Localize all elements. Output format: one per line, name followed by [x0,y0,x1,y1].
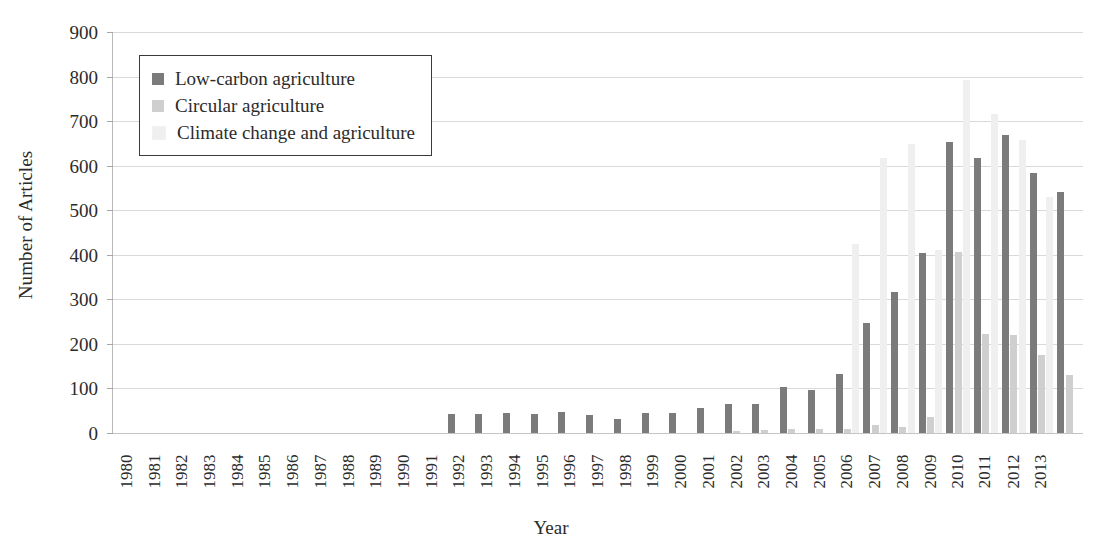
x-tick-label: 1984 [226,437,248,511]
year-group [1030,32,1054,433]
legend-label: Low-carbon agriculture [175,69,355,88]
bar [880,158,887,433]
bar [1019,140,1026,433]
x-tick-label-text: 2007 [866,455,883,489]
x-tick-label-text: 1988 [339,455,356,489]
x-axis-title-text: Year [533,517,568,538]
bar-chart-figure: Number of Articles 900800700600500400300… [0,0,1102,557]
x-tick-label: 1988 [337,437,359,511]
x-tick-label-text: 1994 [505,455,522,489]
bar [475,414,482,433]
x-tick-label-text: 1991 [422,455,439,489]
bar [697,408,704,433]
x-tick-label: 1989 [364,437,386,511]
x-tick-label-text: 1996 [561,455,578,489]
y-axis-title-text: Number of Articles [15,151,37,299]
year-group [697,32,721,433]
bar [852,244,859,433]
legend-swatch-icon [152,126,166,140]
legend-item[interactable]: Climate change and agriculture [152,119,415,146]
legend-swatch-icon [152,73,164,85]
x-tick-label-text: 2009 [921,455,938,489]
x-tick-label: 2005 [808,437,830,511]
chart-legend: Low-carbon agricultureCircular agricultu… [139,55,432,156]
x-axis-title: Year [0,517,1102,539]
bar [863,323,870,433]
year-group [780,32,804,433]
x-tick-label-text: 1989 [367,455,384,489]
bar [503,413,510,433]
bar [935,250,942,433]
bar [982,334,989,433]
y-axis-title: Number of Articles [8,0,44,450]
x-tick-label: 1980 [115,437,137,511]
x-tick-label: 1995 [531,437,553,511]
x-axis-tick-labels: 1980198119821983198419851986198719881989… [112,437,1082,515]
year-group [558,32,582,433]
x-tick-label: 2011 [974,437,996,511]
year-group [642,32,666,433]
bar [974,158,981,433]
bar [558,412,565,433]
bar [899,427,906,433]
x-tick-label-text: 2010 [949,455,966,489]
year-group [448,32,472,433]
bar [733,431,740,433]
x-tick-label: 2012 [1002,437,1024,511]
bar [752,404,759,433]
bar [1046,197,1053,433]
x-tick-label: 1992 [447,437,469,511]
x-tick-label-text: 2011 [977,455,994,488]
bar [927,417,934,433]
x-tick-label: 2010 [946,437,968,511]
year-group [1057,32,1081,433]
bar [955,252,962,433]
bar [844,429,851,433]
y-tick-label: 300 [70,290,99,309]
y-tick-label: 600 [70,156,99,175]
x-tick-label-text: 1995 [533,455,550,489]
bar [669,413,676,433]
bar [642,413,649,433]
x-tick-label-text: 1983 [201,455,218,489]
year-group [503,32,527,433]
x-tick-label: 1987 [309,437,331,511]
x-tick-label-text: 1999 [644,455,661,489]
bar [725,404,732,433]
bar [1030,173,1037,433]
x-tick-label: 2006 [835,437,857,511]
bar [586,415,593,433]
bar [614,419,621,433]
year-group [669,32,693,433]
x-tick-label-text: 2012 [1004,455,1021,489]
bar [991,114,998,433]
year-group [863,32,887,433]
y-tick-label: 800 [70,67,99,86]
y-tick-label: 700 [70,112,99,131]
y-tick-label: 100 [70,379,99,398]
x-tick-label: 1996 [558,437,580,511]
x-tick-label: 1991 [420,437,442,511]
legend-item[interactable]: Circular agriculture [152,92,415,119]
x-tick-label: 1997 [586,437,608,511]
x-tick-label: 2004 [780,437,802,511]
bar [891,292,898,433]
x-tick-label: 2007 [863,437,885,511]
legend-item[interactable]: Low-carbon agriculture [152,65,415,92]
x-tick-label-text: 1982 [173,455,190,489]
bar [531,414,538,433]
x-tick-label: 2009 [919,437,941,511]
x-tick-label: 2008 [891,437,913,511]
year-group [891,32,915,433]
y-tick-label: 400 [70,245,99,264]
x-tick-label-text: 2006 [838,455,855,489]
x-tick-label: 1999 [641,437,663,511]
y-tick-label: 900 [70,23,99,42]
legend-swatch-icon [152,100,164,112]
x-tick-label: 1993 [475,437,497,511]
year-group [475,32,499,433]
year-group [531,32,555,433]
year-group [836,32,860,433]
bar [816,429,823,433]
year-group [808,32,832,433]
